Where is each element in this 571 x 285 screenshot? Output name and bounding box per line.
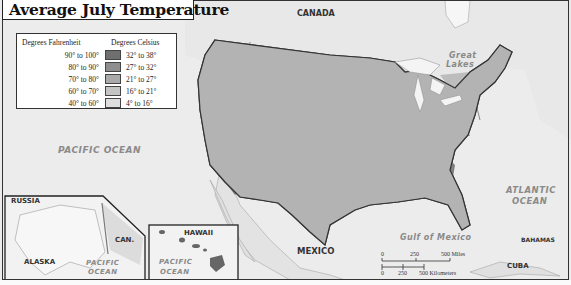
label-pacific-alaska-2: OCEAN [88,268,118,276]
scale-km-500: 500 Kilometers [419,270,456,276]
label-pacific-hawaii-2: OCEAN [160,268,190,276]
legend-fahrenheit: 60° to 70° [47,87,99,96]
label-pacific-alaska-1: PACIFIC [86,259,119,267]
legend-fahrenheit: 80° to 90° [47,63,99,72]
legend-swatch [105,50,121,60]
legend-swatch [105,98,121,108]
legend-fahrenheit: 70° to 80° [47,75,99,84]
label-atlantic-1: ATLANTIC [506,185,556,195]
label-pacific-hawaii-1: PACIFIC [159,258,192,266]
legend-row: 60° to 70° 16° to 21° [17,86,176,98]
label-pacific-ocean: PACIFIC OCEAN [58,145,141,155]
legend-fahrenheit: 40° to 60° [47,99,99,108]
legend-header-celsius: Degrees Celsius [111,38,160,47]
legend-celsius: 16° to 21° [126,87,157,96]
scale-km-0: 0 [381,270,384,276]
scale-miles-250: 250 [410,251,419,257]
label-alaska: ALASKA [24,258,55,266]
map-figure: Average July Temperature Degrees Fahrenh… [0,0,571,285]
title-box: Average July Temperature [2,0,194,20]
label-canada-inset: CAN. [115,236,134,244]
label-atlantic-2: OCEAN [512,196,547,206]
label-cuba: CUBA [507,262,529,270]
legend-row: 80° to 90° 27° to 32° [17,62,176,74]
legend-swatch [105,74,121,84]
map-title: Average July Temperature [9,0,229,19]
legend-fahrenheit: 90° to 100° [47,51,99,60]
scale-km-250: 250 [398,270,407,276]
legend-celsius: 27° to 32° [126,63,157,72]
scale-miles-500: 500 Miles [441,251,465,257]
legend-row: 40° to 60° 4° to 16° [17,98,176,110]
legend-row: 90° to 100° 32° to 38° [17,50,176,62]
label-gulf-of-mexico: Gulf of Mexico [400,233,472,242]
bottom-strip [0,280,571,285]
label-bahamas: BAHAMAS [521,236,555,243]
scale-miles-0: 0 [381,251,384,257]
label-russia: RUSSIA [11,197,40,205]
label-mexico: MEXICO [297,246,334,256]
legend-celsius: 21° to 27° [126,75,157,84]
legend: Degrees Fahrenheit Degrees Celsius 90° t… [16,33,177,109]
label-great-lakes-2: Lakes [446,60,474,69]
legend-celsius: 32° to 38° [126,51,157,60]
legend-swatch [105,86,121,96]
legend-celsius: 4° to 16° [126,99,153,108]
label-canada: CANADA [297,9,335,18]
legend-swatch [105,62,121,72]
label-great-lakes-1: Great [449,51,477,60]
legend-row: 70° to 80° 21° to 27° [17,74,176,86]
legend-header-fahrenheit: Degrees Fahrenheit [22,38,81,47]
label-hawaii: HAWAII [184,229,213,237]
